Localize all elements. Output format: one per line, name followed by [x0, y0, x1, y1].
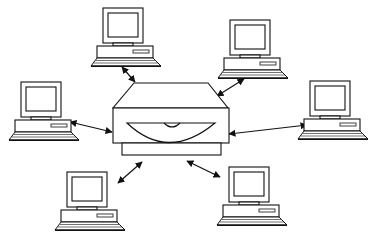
computer-top-right: Client computer: [218, 20, 288, 79]
desktop-computer-icon: [91, 8, 161, 67]
desktop-computer-icon: [298, 81, 368, 140]
arrow-left: [70, 122, 112, 132]
arrow-top-right: [217, 79, 244, 96]
computer-bottom-left: Client computer: [55, 172, 125, 231]
desktop-computer-icon: [9, 82, 79, 141]
computer-bottom-right: Client computer: [217, 167, 287, 226]
arrow-right: [229, 125, 307, 134]
desktop-computer-icon: [218, 20, 288, 79]
arrow-bottom-right: [187, 161, 220, 177]
arrow-top-left: [122, 67, 135, 82]
computer-top-left: Client computer: [91, 8, 161, 67]
arrow-bottom-left: [118, 162, 142, 183]
computer-right: Client computer: [298, 81, 368, 140]
desktop-computer-icon: [217, 167, 287, 226]
desktop-computer-icon: [55, 172, 125, 231]
computer-left: Client computer: [9, 82, 79, 141]
disk-drive-icon: Server / storage device: [113, 83, 229, 155]
network-diagram: Server / storage device Client computer …: [0, 0, 372, 235]
